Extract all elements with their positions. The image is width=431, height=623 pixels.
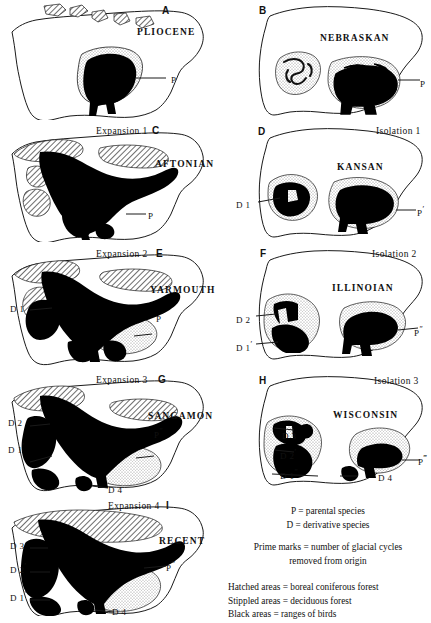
legend-parental: P = parental species: [228, 505, 428, 519]
panel-era-C: AFTONIAN: [155, 159, 214, 169]
panel-I-map: [4, 498, 204, 616]
panel-phase-I: Expansion 4: [108, 501, 160, 511]
legend-derivative: D = derivative species: [228, 519, 428, 533]
map-nebraskan: [222, 2, 427, 120]
map-illinoian: [222, 246, 427, 368]
legend-prime-line1: Prime marks = number of glacial cycles: [228, 541, 428, 555]
panel-era-D: KANSAN: [337, 162, 384, 172]
species-label-I-1: D 2′: [10, 562, 26, 575]
map-yarmouth: [4, 246, 204, 366]
panel-C-map: [4, 124, 204, 242]
panel-letter-H: H: [259, 375, 267, 386]
panel-H-map: [222, 372, 427, 496]
species-label-D-1: P′: [417, 205, 424, 218]
panel-phase-D: Isolation 1: [376, 126, 421, 136]
legend-prime-line2: removed from origin: [228, 555, 428, 569]
map-sangamon: [4, 372, 204, 494]
map-kansan: [222, 124, 427, 242]
legend-stippled: Stippled areas = deciduous forest: [228, 595, 428, 609]
panel-era-G: SANGAMON: [148, 411, 213, 421]
map-pliocene: [4, 2, 204, 120]
panel-era-B: NEBRASKAN: [320, 33, 390, 43]
panel-E-map: [4, 246, 204, 366]
species-label-I-2: D 1″: [10, 590, 27, 603]
species-label-I-4: D 4: [112, 604, 126, 617]
panel-letter-E: E: [156, 248, 163, 259]
species-label-H-4: P‴: [418, 454, 426, 467]
panel-era-E: YARMOUTH: [150, 285, 215, 295]
panel-phase-H: Isolation 3: [374, 376, 419, 386]
map-aftonian: [4, 124, 204, 242]
panel-D-map: [222, 124, 427, 242]
legend-hatched: Hatched areas = boreal coniferous forest: [228, 581, 428, 595]
panel-letter-G: G: [158, 374, 166, 385]
species-label-G-2: P″: [154, 427, 162, 440]
species-label-C-0: P: [148, 208, 153, 221]
panel-letter-I: I: [166, 500, 169, 511]
species-label-H-0: D 3: [282, 428, 296, 441]
species-label-D-0: D 1: [236, 197, 250, 210]
species-label-F-0: D 2: [236, 312, 250, 325]
panel-era-F: ILLINOIAN: [332, 283, 394, 293]
panel-phase-F: Isolation 2: [372, 249, 417, 259]
panel-era-I: RECENT: [159, 536, 205, 546]
panel-letter-A: A: [162, 5, 170, 16]
legend-species-group: P = parental species D = derivative spec…: [228, 505, 428, 532]
panel-phase-C: Expansion 1: [96, 126, 148, 136]
species-label-F-2: P″: [414, 325, 422, 338]
panel-era-H: WISCONSIN: [333, 410, 398, 420]
panel-phase-G: Expansion 3: [96, 375, 148, 385]
species-label-I-0: D 3: [10, 538, 24, 551]
species-label-A-0: P: [171, 72, 176, 85]
panel-letter-B: B: [259, 5, 267, 16]
species-label-B-0: P: [420, 76, 425, 89]
panel-letter-D: D: [258, 126, 266, 137]
species-label-H-1: D 2′: [280, 448, 296, 461]
species-label-G-3: D 4: [108, 482, 122, 495]
panel-G-map: [4, 372, 204, 494]
legend-prime-group: Prime marks = number of glacial cycles r…: [228, 541, 428, 568]
species-label-H-2: D 1″: [280, 468, 297, 481]
legend-black: Black areas = ranges of birds: [228, 608, 428, 622]
species-label-G-0: D 2: [8, 415, 22, 428]
panel-F-map: [222, 246, 427, 368]
map-wisconsin: [222, 372, 427, 496]
panel-A-map: [4, 2, 204, 120]
species-label-I-3: P‴: [166, 560, 174, 573]
species-label-G-1: D 1′: [8, 442, 24, 455]
species-label-E-1: P′: [156, 311, 163, 324]
panel-letter-F: F: [260, 248, 267, 259]
panel-era-A: PLIOCENE: [137, 27, 195, 37]
panel-letter-C: C: [152, 125, 160, 136]
species-label-E-0: D 1: [10, 301, 24, 314]
legend-areas-group: Hatched areas = boreal coniferous forest…: [228, 581, 428, 622]
species-label-F-1: D 1′: [236, 340, 252, 353]
figure-legend: P = parental species D = derivative spec…: [228, 505, 428, 623]
panel-phase-E: Expansion 2: [96, 249, 148, 259]
panel-B-map: [222, 2, 427, 120]
map-recent: [4, 498, 204, 616]
species-label-H-3: D 4: [378, 470, 392, 483]
